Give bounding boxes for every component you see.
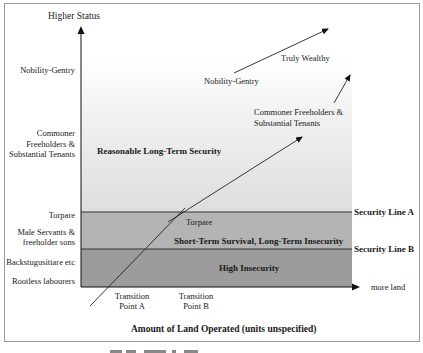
x-tick-transition-a-line1: Transition [112, 291, 152, 301]
x-axis-arrow-icon [352, 284, 360, 291]
y-level-backstugusittare: Backstugusittare etc [6, 257, 75, 267]
security-line-a-label: Security Line A [354, 207, 414, 217]
y-axis-title: Higher Status [48, 11, 100, 21]
path-label-truly-wealthy: Truly Wealthy [281, 53, 330, 63]
path-label-nobility: Nobility-Gentry [204, 76, 259, 86]
y-level-commoner-line2: Freeholders & [26, 139, 75, 149]
x-axis-end-label: more land [371, 282, 405, 292]
y-level-male-servants-line1: Male Servants & [17, 227, 75, 237]
y-axis-arrow-icon [78, 26, 85, 34]
y-level-nobility: Nobility-Gentry [20, 65, 75, 75]
path-label-commoner-line2: Substantial Tenants [254, 118, 320, 128]
x-axis-title: Amount of Land Operated (units unspecifi… [131, 324, 317, 334]
x-tick-transition-a-line2: Point A [112, 301, 152, 311]
figure-caption-cutoff [110, 346, 270, 353]
path-label-torpare: Torpare [186, 217, 212, 227]
zone-label-short-term: Short-Term Survival, Long-Term Insecurit… [174, 236, 343, 246]
y-level-commoner-line3: Substantial Tenants [9, 149, 75, 159]
caption-fragment [110, 346, 270, 353]
x-tick-transition-b-line2: Point B [176, 301, 216, 311]
y-level-commoner-line1: Commoner [37, 128, 75, 138]
zone-label-high-insecurity: High Insecurity [219, 263, 279, 273]
zone-high-insecurity [81, 249, 352, 287]
zone-label-reasonable-security: Reasonable Long-Term Security [97, 146, 221, 156]
y-level-male-servants-line2: freeholder sons [23, 237, 75, 247]
security-line-b-label: Security Line B [354, 244, 414, 254]
x-tick-transition-b-line1: Transition [176, 291, 216, 301]
y-level-torpare: Torpare [49, 210, 75, 220]
path-label-commoner-line1: Commoner Freeholders & [254, 107, 343, 117]
y-level-rootless: Rootless labourers [12, 276, 75, 286]
